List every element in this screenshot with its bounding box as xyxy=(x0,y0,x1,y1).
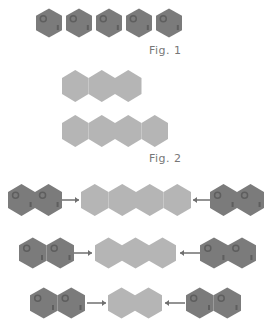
dark-hex-tile xyxy=(156,9,182,38)
left-arrow-icon xyxy=(180,250,200,256)
light-hex-tile xyxy=(115,115,142,147)
light-hex-tile xyxy=(95,238,122,269)
light-hex-tile xyxy=(122,238,149,269)
dark-hex-tile xyxy=(214,288,242,319)
light-hex-tile xyxy=(149,238,176,269)
right-arrow-icon xyxy=(87,300,106,306)
dark-hex-tile xyxy=(36,9,62,38)
dark-hex-tile xyxy=(237,184,264,216)
dark-hex-tile xyxy=(66,9,92,38)
light-hex-tile xyxy=(62,70,89,102)
dark-hex-tile xyxy=(228,238,256,269)
light-hex-tile xyxy=(164,184,192,216)
dark-hex-tile xyxy=(19,238,47,269)
dark-hex-tile xyxy=(30,288,58,319)
dark-hex-tile xyxy=(35,184,62,216)
light-hex-tile xyxy=(89,115,116,147)
dark-hex-tile xyxy=(58,288,86,319)
light-hex-tile xyxy=(108,288,135,319)
right-arrow-icon xyxy=(74,250,92,256)
dark-hex-tile xyxy=(210,184,237,216)
dark-hex-tile xyxy=(200,238,228,269)
fig1-caption: Fig. 1 xyxy=(149,44,182,57)
dark-hex-tile xyxy=(96,9,122,38)
right-arrow-icon xyxy=(62,197,79,203)
light-hex-tile xyxy=(89,70,116,102)
light-hex-tile xyxy=(109,184,137,216)
fig2-caption: Fig. 2 xyxy=(149,152,182,165)
dark-hex-tile xyxy=(8,184,35,216)
light-hex-tile xyxy=(81,184,109,216)
left-arrow-icon xyxy=(165,300,185,306)
light-hex-tile xyxy=(142,115,169,147)
light-hex-tile xyxy=(62,115,89,147)
dark-hex-tile xyxy=(47,238,75,269)
light-hex-tile xyxy=(135,288,162,319)
left-arrow-icon xyxy=(193,197,210,203)
dark-hex-tile xyxy=(186,288,214,319)
light-hex-tile xyxy=(136,184,164,216)
dark-hex-tile xyxy=(126,9,152,38)
light-hex-tile xyxy=(115,70,142,102)
hexagon-diagram xyxy=(0,0,274,322)
